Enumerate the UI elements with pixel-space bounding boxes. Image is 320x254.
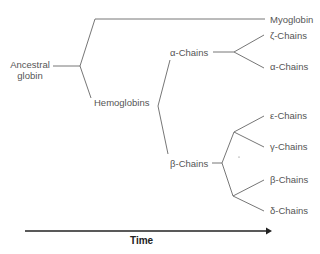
branch-beta	[233, 180, 264, 196]
label-alpha: α-Chains	[270, 61, 308, 72]
branch-epsilon	[234, 116, 264, 132]
label-epsilon: ε-Chains	[270, 110, 307, 121]
branch-alpha-group	[158, 60, 170, 106]
label-hemoglobins: Hemoglobins	[94, 97, 149, 108]
root-label: Ancestral globin	[10, 59, 50, 81]
label-alpha-group: α-Chains	[170, 47, 208, 58]
branch-zeta	[234, 35, 264, 52]
branch-hemoglobins	[80, 66, 91, 98]
label-myoglobin: Myoglobin	[270, 14, 313, 25]
time-axis-label: Time	[130, 235, 153, 246]
branch-gamma	[234, 132, 264, 147]
label-gamma: γ-Chains	[270, 141, 308, 152]
branch-myoglobin	[80, 19, 265, 66]
arrow-head-icon	[266, 228, 272, 235]
branch-epsilon-gamma	[222, 132, 234, 163]
branch-alpha	[234, 52, 264, 68]
label-beta: β-Chains	[270, 174, 308, 185]
label-zeta: ζ-Chains	[270, 30, 307, 41]
branch-beta-group	[158, 106, 168, 154]
label-delta: δ-Chains	[270, 205, 308, 216]
branch-beta-delta	[222, 163, 233, 196]
label-beta-group: β-Chains	[170, 158, 208, 169]
branch-delta	[233, 196, 264, 211]
